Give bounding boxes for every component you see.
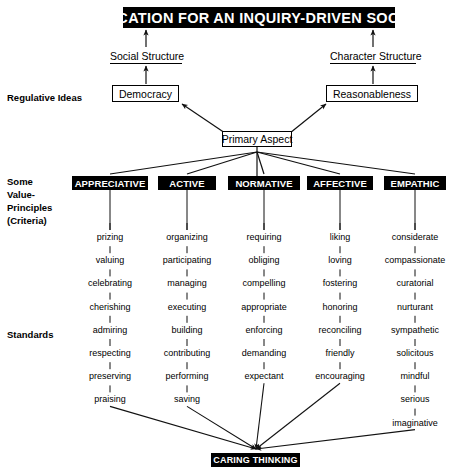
- standard-word: saving: [174, 394, 200, 404]
- standard-word: building: [171, 325, 202, 335]
- column-header-empathic: EMPATHIC: [384, 176, 446, 190]
- caring-thinking-banner: CARING THINKING: [211, 453, 300, 467]
- standard-word: compelling: [242, 278, 285, 288]
- title-banner: EDUCATION FOR AN INQUIRY-DRIVEN SOCIETY: [123, 7, 395, 28]
- standard-word: requiring: [246, 232, 281, 242]
- standard-word: curatorial: [396, 278, 433, 288]
- standard-word: participating: [163, 255, 212, 265]
- standard-word: encouraging: [315, 371, 365, 381]
- standard-word: preserving: [89, 371, 131, 381]
- standard-word: praising: [94, 394, 126, 404]
- node-reasonableness: Reasonableness: [326, 85, 418, 102]
- node-primary-aspect: Primary Aspect: [222, 131, 292, 147]
- standard-word: compassionate: [385, 255, 446, 265]
- standard-word: performing: [165, 371, 208, 381]
- standard-word: expectant: [244, 371, 283, 381]
- standard-word: enforcing: [245, 325, 282, 335]
- tier-label-regulative-ideas: Regulative Ideas: [7, 91, 82, 104]
- node-democracy: Democracy: [112, 85, 179, 102]
- standard-word: serious: [400, 394, 429, 404]
- tier-label-line-1: Some: [7, 175, 52, 188]
- standard-word: honoring: [322, 302, 357, 312]
- standard-word: cherishing: [89, 302, 130, 312]
- column-header-appreciative: APPRECIATIVE: [72, 176, 148, 190]
- standard-word: loving: [328, 255, 352, 265]
- tier-label-line-4: (Criteria): [7, 214, 52, 227]
- standard-word: friendly: [325, 348, 354, 358]
- standard-word: mindful: [400, 371, 429, 381]
- standard-word: admiring: [93, 325, 128, 335]
- standard-word: respecting: [89, 348, 131, 358]
- standard-word: organizing: [166, 232, 208, 242]
- standard-word: contributing: [164, 348, 211, 358]
- standard-word: sympathetic: [391, 325, 439, 335]
- tier-label-line-3: Principles: [7, 201, 52, 214]
- tier-label-standards: Standards: [7, 328, 53, 341]
- tier-label-value-principles: Some Value- Principles (Criteria): [7, 175, 52, 227]
- tier-label-line-2: Value-: [7, 188, 52, 201]
- column-header-affective: AFFECTIVE: [307, 176, 373, 190]
- node-social-structure: Social Structure: [110, 50, 182, 64]
- column-header-normative: NORMATIVE: [228, 176, 300, 190]
- standard-word: managing: [167, 278, 207, 288]
- standard-word: demanding: [242, 348, 287, 358]
- standard-word: valuing: [96, 255, 125, 265]
- standard-word: obliging: [248, 255, 279, 265]
- diagram-canvas: EDUCATION FOR AN INQUIRY-DRIVEN SOCIETY …: [0, 0, 451, 475]
- standard-word: celebrating: [88, 278, 132, 288]
- standard-word: prizing: [97, 232, 124, 242]
- standard-word: liking: [330, 232, 351, 242]
- diagram-edges: [0, 0, 451, 475]
- node-character-structure: Character Structure: [330, 50, 416, 64]
- standard-word: fostering: [323, 278, 358, 288]
- standard-word: solicitous: [396, 348, 433, 358]
- standard-word: nurturant: [397, 302, 433, 312]
- standard-word: imaginative: [392, 418, 438, 428]
- standard-word: reconciling: [318, 325, 361, 335]
- standard-word: considerate: [392, 232, 439, 242]
- standard-word: appropriate: [241, 302, 287, 312]
- column-header-active: ACTIVE: [158, 176, 216, 190]
- standard-word: executing: [168, 302, 207, 312]
